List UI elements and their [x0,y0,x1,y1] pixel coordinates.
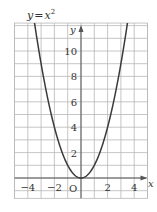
chart-title: y=x2 [26,8,55,22]
x-axis-label: x [148,178,154,189]
y-axis-label: y [69,24,76,35]
y-tick-label: 4 [71,122,77,133]
x-tick-label: −4 [20,182,35,193]
x-axis-arrow-icon [141,176,148,181]
title-exponent: 2 [51,8,55,16]
title-eq: = [34,9,43,22]
x-tick-label: −2 [47,182,62,193]
x-tick-label: 2 [104,182,110,193]
y-axis-arrow-icon [79,25,84,32]
x-tick-label: 4 [131,182,137,193]
parabola-chart: −4−224246810 y=x2 y x O [0,0,157,212]
y-tick-label: 8 [71,71,77,82]
title-y: y [26,9,34,22]
y-tick-label: 10 [64,46,77,57]
y-tick-label: 2 [71,148,77,159]
y-tick-label: 6 [71,97,77,108]
origin-label: O [69,183,77,194]
